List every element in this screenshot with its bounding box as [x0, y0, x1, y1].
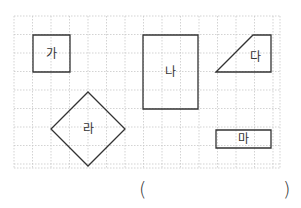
shape-label-ra: 라 — [83, 122, 94, 136]
shapes: 가나다라마 — [33, 35, 271, 166]
shape-label-ga: 가 — [46, 47, 57, 61]
shape-da: 다 — [216, 35, 271, 72]
shape-ga: 가 — [33, 35, 70, 72]
shape-na: 나 — [143, 35, 198, 109]
shape-label-ma: 마 — [238, 132, 249, 146]
answer-open-paren: ( — [139, 177, 146, 201]
shape-grid-figure: 가나다라마 — [0, 0, 301, 208]
answer-blank[interactable] — [150, 180, 280, 200]
answer-close-paren: ) — [283, 177, 290, 201]
trapezoid-outline — [216, 35, 271, 72]
shape-label-na: 나 — [165, 65, 176, 79]
shape-label-da: 다 — [250, 50, 261, 64]
